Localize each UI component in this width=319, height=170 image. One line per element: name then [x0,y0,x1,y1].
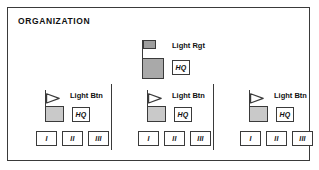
battalion-3-unit-symbol[interactable] [249,106,268,122]
battalion-1-hq-box[interactable]: HQ [72,107,90,122]
rectangular-flag-filled-icon [143,40,156,49]
company-box[interactable]: I [240,131,261,146]
battalion-2-hq-box[interactable]: HQ [174,107,192,122]
regiment-hq-box[interactable]: HQ [172,60,190,75]
triangular-pennant-flag-icon [46,90,60,101]
battalion-1-label: Light Btn [70,91,103,100]
group-divider-left [111,84,112,150]
page-title: ORGANIZATION [18,16,90,26]
company-box[interactable]: III [88,131,109,146]
battalion-2-unit-symbol[interactable] [147,106,166,122]
organization-panel: ORGANIZATION Light Rgt HQ Light Btn HQ I… [7,7,310,161]
triangular-pennant-flag-icon [148,90,162,101]
company-box[interactable]: II [164,131,185,146]
company-box[interactable]: III [292,131,313,146]
battalion-3-label: Light Btn [274,91,307,100]
battalion-1-unit-symbol[interactable] [45,106,64,122]
battalion-3-hq-box[interactable]: HQ [276,107,294,122]
battalion-2-label: Light Btn [172,91,205,100]
company-box[interactable]: I [138,131,159,146]
company-box[interactable]: II [266,131,287,146]
company-box[interactable]: I [36,131,57,146]
company-box[interactable]: II [62,131,83,146]
regiment-label: Light Rgt [172,41,205,50]
company-box[interactable]: III [190,131,211,146]
regiment-unit-symbol[interactable] [142,58,164,79]
group-divider-right [213,84,214,150]
triangular-pennant-flag-icon [250,90,264,101]
